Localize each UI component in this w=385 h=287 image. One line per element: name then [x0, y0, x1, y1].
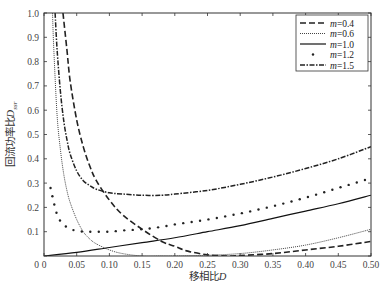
y-tick-label: 0.9: [27, 33, 39, 43]
x-tick-label: 0.45: [330, 260, 347, 270]
x-tick-label: 0: [42, 260, 47, 270]
data-point: [290, 200, 292, 202]
x-tick-label: 0.25: [199, 260, 216, 270]
data-point: [241, 212, 243, 214]
y-tick-label: 1.0: [27, 9, 39, 19]
data-point: [299, 198, 301, 200]
y-tick-label: 0.3: [27, 179, 39, 189]
data-point: [165, 225, 167, 227]
x-tick-label: 0.30: [232, 260, 249, 270]
legend-label: m=0.4: [330, 19, 354, 29]
y-tick-label: 0.5: [27, 130, 39, 140]
y-tick-label: 0: [34, 260, 39, 270]
data-point: [282, 202, 284, 204]
data-point: [249, 210, 251, 212]
data-point: [115, 230, 117, 232]
data-point: [106, 231, 108, 233]
data-point: [207, 218, 209, 220]
x-axis-title: 移相比D: [189, 270, 227, 282]
series-line: [44, 195, 371, 256]
data-point: [199, 220, 201, 222]
legend-label: m=1.0: [330, 40, 354, 50]
data-point: [132, 229, 134, 231]
x-tick-label: 0.50: [363, 260, 380, 270]
legend-label: m=0.6: [330, 29, 354, 39]
data-point: [224, 215, 226, 217]
y-tick-label: 0.8: [27, 57, 39, 67]
y-tick-label: 0.6: [27, 106, 39, 116]
data-point: [347, 184, 349, 186]
legend-label: m=1.2: [330, 50, 354, 60]
y-tick-label: 0.4: [27, 154, 39, 164]
data-point: [123, 229, 125, 231]
data-point: [307, 196, 309, 198]
data-point: [315, 193, 317, 195]
series-m-1-0: [44, 195, 371, 256]
data-point: [266, 206, 268, 208]
legend-label: m=1.5: [330, 61, 354, 71]
data-point: [182, 222, 184, 224]
legend-swatch: [312, 53, 314, 55]
data-point: [98, 231, 100, 233]
series-m-1-2: [49, 178, 371, 233]
x-tick-label: 0.15: [134, 260, 151, 270]
data-point: [157, 226, 159, 228]
data-point: [65, 225, 67, 227]
data-point: [49, 187, 51, 189]
data-point: [55, 212, 57, 214]
data-point: [331, 189, 333, 191]
data-point: [323, 191, 325, 193]
data-point: [339, 186, 341, 188]
y-tick-label: 0.1: [27, 227, 39, 237]
data-point: [364, 179, 366, 181]
data-point: [174, 223, 176, 225]
data-point: [274, 204, 276, 206]
data-point: [53, 203, 55, 205]
data-point: [190, 221, 192, 223]
data-point: [81, 230, 83, 232]
y-axis-title: 回流功率比Dssr: [4, 101, 19, 167]
y-tick-label: 0.7: [27, 81, 39, 91]
x-tick-label: 0.40: [297, 260, 314, 270]
y-tick-label: 0.2: [27, 203, 39, 213]
data-point: [356, 181, 358, 183]
data-point: [232, 214, 234, 216]
x-tick-label: 0.10: [101, 260, 118, 270]
x-tick-label: 0.20: [166, 260, 183, 270]
data-point: [148, 227, 150, 229]
legend: m=0.4m=0.6m=1.0m=1.2m=1.5: [296, 15, 368, 71]
data-point: [216, 217, 218, 219]
x-tick-label: 0.05: [68, 260, 85, 270]
data-point: [72, 229, 74, 231]
data-point: [51, 195, 53, 197]
data-point: [257, 208, 259, 210]
data-point: [59, 219, 61, 221]
data-point: [140, 228, 142, 230]
x-tick-label: 0.35: [265, 260, 282, 270]
chart: 00.050.100.150.200.250.300.350.400.450.5…: [0, 0, 385, 287]
data-point: [89, 231, 91, 233]
